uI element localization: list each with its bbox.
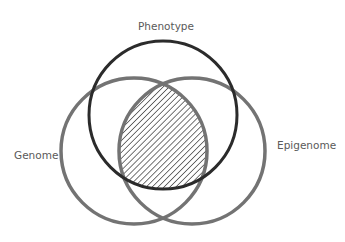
phenotype-label: Phenotype — [138, 20, 194, 32]
venn-diagram: Phenotype Genome Epigenome — [0, 0, 345, 242]
genome-label: Genome — [14, 149, 58, 161]
epigenome-label: Epigenome — [277, 139, 336, 151]
